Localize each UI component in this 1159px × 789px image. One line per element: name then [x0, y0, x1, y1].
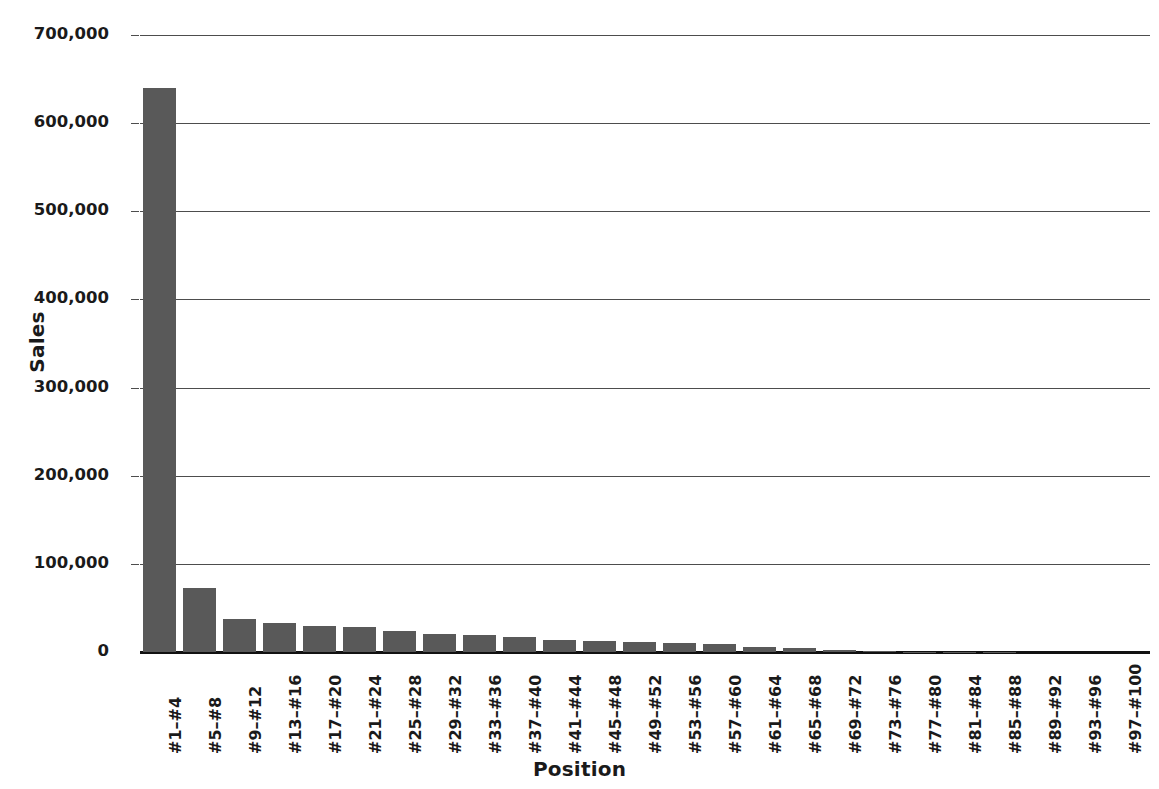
- x-axis-tick-label-text: #45–#48: [606, 654, 625, 754]
- x-axis-tick-label: #85–#88: [1006, 618, 1025, 658]
- x-axis-tick-label: #13–#16: [286, 618, 305, 658]
- y-axis-tick-label: 0: [0, 641, 109, 660]
- plot-area: 700,000600,000500,000400,000300,000200,0…: [140, 35, 1150, 652]
- x-axis-tick-label-text: #13–#16: [286, 654, 305, 754]
- x-axis-tick-label-text: #9–#12: [246, 654, 265, 754]
- x-axis-tick-label-text: #93–#96: [1086, 654, 1105, 754]
- x-axis-tick-label: #25–#28: [406, 618, 425, 658]
- x-axis-tick-label-text: #85–#88: [1006, 654, 1025, 754]
- x-axis-tick-label: #65–#68: [806, 618, 825, 658]
- x-axis-tick-label: #93–#96: [1086, 618, 1105, 658]
- x-axis-tick-label-text: #97–#100: [1126, 654, 1145, 754]
- x-axis-tick-label: #41–#44: [566, 618, 585, 658]
- x-axis-tick-label-text: #29–#32: [446, 654, 465, 754]
- x-axis-tick-label: #45–#48: [606, 618, 625, 658]
- x-axis-tick-label-text: #57–#60: [726, 654, 745, 754]
- x-axis-tick-labels: #1–#4#5–#8#9–#12#13–#16#17–#20#21–#24#25…: [140, 652, 1150, 752]
- x-axis-tick-label: #49–#52: [646, 618, 665, 658]
- y-axis-tick-label: 300,000: [0, 377, 109, 396]
- y-axis-tick-label: 700,000: [0, 24, 109, 43]
- x-axis-tick-label-text: #73–#76: [886, 654, 905, 754]
- x-axis-tick-label-text: #21–#24: [366, 654, 385, 754]
- x-axis-tick-label-text: #89–#92: [1046, 654, 1065, 754]
- x-axis-tick-label: #89–#92: [1046, 618, 1065, 658]
- bar-series: [140, 35, 1150, 652]
- x-axis-tick-label-text: #33–#36: [486, 654, 505, 754]
- x-axis-tick-label-text: #41–#44: [566, 654, 585, 754]
- x-axis-tick-label: #5–#8: [206, 618, 225, 658]
- x-axis-tick-label-text: #69–#72: [846, 654, 865, 754]
- x-axis-tick-label: #69–#72: [846, 618, 865, 658]
- x-axis-tick-label: #97–#100: [1126, 618, 1145, 658]
- x-axis-title: Position: [0, 757, 1159, 781]
- x-axis-tick-label: #81–#84: [966, 618, 985, 658]
- x-axis-tick-label-text: #81–#84: [966, 654, 985, 754]
- x-axis-tick-label: #17–#20: [326, 618, 345, 658]
- x-axis-tick-label: #73–#76: [886, 618, 905, 658]
- x-axis-tick-label-text: #77–#80: [926, 654, 945, 754]
- bar-chart: Sales 700,000600,000500,000400,000300,00…: [0, 0, 1159, 789]
- y-axis-tick-label: 100,000: [0, 553, 109, 572]
- x-axis-tick-label: #9–#12: [246, 618, 265, 658]
- y-axis-tick-label: 500,000: [0, 200, 109, 219]
- x-axis-tick-label: #21–#24: [366, 618, 385, 658]
- y-axis-tick-mark: [131, 35, 139, 36]
- y-axis-tick-label: 200,000: [0, 465, 109, 484]
- x-axis-tick-label: #57–#60: [726, 618, 745, 658]
- x-axis-tick-label-text: #5–#8: [206, 654, 225, 754]
- bar: [143, 88, 176, 652]
- x-axis-tick-label-text: #25–#28: [406, 654, 425, 754]
- x-axis-tick-label: #33–#36: [486, 618, 505, 658]
- y-axis-tick-mark: [131, 388, 139, 389]
- y-axis-tick-label: 600,000: [0, 112, 109, 131]
- y-axis-tick-mark: [131, 123, 139, 124]
- x-axis-tick-label-text: #65–#68: [806, 654, 825, 754]
- y-axis-tick-mark: [131, 299, 139, 300]
- x-axis-tick-label: #61–#64: [766, 618, 785, 658]
- x-axis-tick-label-text: #17–#20: [326, 654, 345, 754]
- y-axis-tick-label: 400,000: [0, 288, 109, 307]
- x-axis-tick-label: #29–#32: [446, 618, 465, 658]
- x-axis-tick-label-text: #49–#52: [646, 654, 665, 754]
- y-axis-tick-mark: [131, 476, 139, 477]
- x-axis-tick-label-text: #1–#4: [166, 654, 185, 754]
- x-axis-tick-label-text: #61–#64: [766, 654, 785, 754]
- x-axis-tick-label: #77–#80: [926, 618, 945, 658]
- x-axis-tick-label: #53–#56: [686, 618, 705, 658]
- y-axis-tick-mark: [131, 564, 139, 565]
- x-axis-tick-label-text: #53–#56: [686, 654, 705, 754]
- y-axis-tick-mark: [131, 211, 139, 212]
- x-axis-tick-label: #37–#40: [526, 618, 545, 658]
- x-axis-tick-label-text: #37–#40: [526, 654, 545, 754]
- x-axis-tick-label: #1–#4: [166, 618, 185, 658]
